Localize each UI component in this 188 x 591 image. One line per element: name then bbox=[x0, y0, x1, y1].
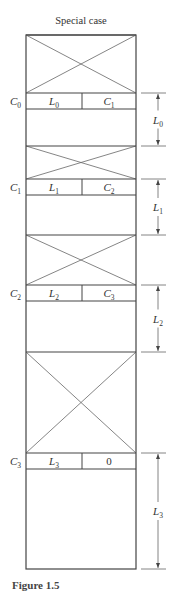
arrow-down-icon bbox=[156, 229, 160, 234]
pointer-label-C2: C2 bbox=[10, 287, 21, 302]
column-outline bbox=[26, 35, 136, 569]
next-pointer-cell-label: C3 bbox=[103, 287, 114, 302]
length-cell-label: L2 bbox=[48, 287, 59, 302]
arrow-down-icon bbox=[156, 140, 160, 145]
length-cell-label: L0 bbox=[48, 95, 59, 110]
dimension-label-L1: L1 bbox=[152, 201, 163, 216]
figure-caption: Figure 1.5 bbox=[12, 579, 59, 591]
arrow-up-icon bbox=[156, 180, 160, 185]
arrow-down-icon bbox=[156, 346, 160, 351]
length-cell-label: L1 bbox=[48, 181, 59, 196]
arrow-down-icon bbox=[156, 563, 160, 568]
arrow-up-icon bbox=[156, 454, 160, 459]
next-pointer-cell-label: C2 bbox=[103, 181, 114, 196]
pointer-label-C1: C1 bbox=[10, 181, 21, 196]
dimension-label-L2: L2 bbox=[152, 313, 163, 328]
pointer-label-C3: C3 bbox=[10, 455, 21, 470]
dimension-label-L3: L3 bbox=[152, 505, 163, 520]
dimension-label-L0: L0 bbox=[152, 114, 163, 129]
length-cell-label: L3 bbox=[48, 455, 59, 470]
next-pointer-cell-label: 0 bbox=[106, 455, 112, 467]
arrow-up-icon bbox=[156, 286, 160, 291]
arrow-up-icon bbox=[156, 94, 160, 99]
pointer-label-C0: C0 bbox=[10, 95, 21, 110]
next-pointer-cell-label: C1 bbox=[103, 95, 114, 110]
